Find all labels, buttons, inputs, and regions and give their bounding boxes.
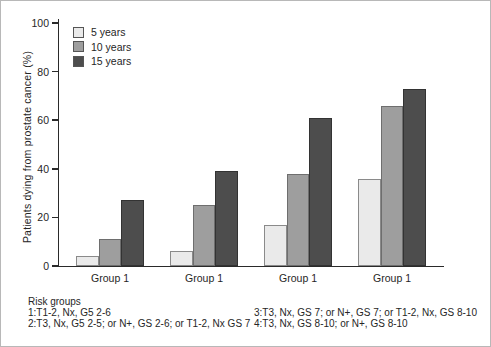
legend-swatch-10-years <box>73 41 84 52</box>
bar-group2-10-years <box>193 205 216 266</box>
y-tick-label-40: 40 <box>19 163 49 175</box>
risk-groups-right-column: 3:T3, Nx, GS 7; or N+, GS 7; or T1-2, Nx… <box>254 307 477 329</box>
y-tick-label-0: 0 <box>19 260 49 272</box>
legend-swatch-15-years <box>73 56 84 67</box>
legend-item-10-years: 10 years <box>73 40 131 55</box>
plot-area: 5 years 10 years 15 years 020406080100Gr… <box>58 19 444 267</box>
bar-group2-15-years <box>215 171 238 266</box>
risk-group-1-definition: 1:T1-2, Nx, G5 2-6 <box>28 307 250 318</box>
legend-item-15-years: 15 years <box>73 54 131 69</box>
y-tick-label-20: 20 <box>19 211 49 223</box>
y-tick-label-100: 100 <box>19 17 49 29</box>
risk-groups-title: Risk groups <box>28 296 250 307</box>
y-tick-40 <box>52 168 58 170</box>
bar-group3-10-years <box>287 174 310 266</box>
risk-group-4-definition: 4:T3, Nx, GS 8-10; or N+, GS 8-10 <box>254 318 477 329</box>
legend: 5 years 10 years 15 years <box>73 25 131 69</box>
legend-item-5-years: 5 years <box>73 25 131 40</box>
bar-group3-5-years <box>264 225 287 266</box>
y-tick-label-80: 80 <box>19 66 49 78</box>
y-tick-100 <box>52 22 58 24</box>
x-category-label-4: Group 1 <box>373 272 411 284</box>
x-category-label-2: Group 1 <box>185 272 223 284</box>
bar-group4-15-years <box>403 89 426 266</box>
figure: Patients dying from prostate cancer (%) … <box>0 0 491 347</box>
bar-group1-10-years <box>99 239 122 266</box>
bar-group3-15-years <box>309 118 332 266</box>
risk-groups-left-column: Risk groups 1:T1-2, Nx, G5 2-6 2:T3, Nx,… <box>28 296 250 329</box>
risk-group-3-definition: 3:T3, Nx, GS 7; or N+, GS 7; or T1-2, Nx… <box>254 307 477 318</box>
legend-swatch-5-years <box>73 27 84 38</box>
x-category-label-1: Group 1 <box>91 272 129 284</box>
legend-label-15-years: 15 years <box>91 55 131 67</box>
y-tick-0 <box>52 265 58 267</box>
bar-group1-5-years <box>76 256 99 266</box>
legend-label-5-years: 5 years <box>91 26 125 38</box>
y-tick-60 <box>52 119 58 121</box>
bar-group1-15-years <box>121 200 144 266</box>
risk-group-2-definition: 2:T3, Nx, G5 2-5; or N+, GS 2-6; or T1-2… <box>28 318 250 329</box>
bar-group4-5-years <box>358 179 381 266</box>
x-category-label-3: Group 1 <box>279 272 317 284</box>
bar-group2-5-years <box>170 251 193 266</box>
y-tick-20 <box>52 217 58 219</box>
y-tick-label-60: 60 <box>19 114 49 126</box>
bar-group4-10-years <box>381 106 404 266</box>
y-tick-80 <box>52 71 58 73</box>
legend-label-10-years: 10 years <box>91 41 131 53</box>
